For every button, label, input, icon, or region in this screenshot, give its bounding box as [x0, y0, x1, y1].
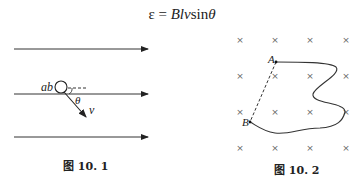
magnetic-field-crosses: ×××× ×××× ×××× ××××	[236, 35, 350, 153]
figure2-caption: 图 10. 2	[274, 161, 319, 177]
curved-wire	[250, 62, 345, 133]
label-a: A	[268, 53, 275, 65]
cross-icon: ×	[236, 71, 244, 81]
cross-icon: ×	[271, 143, 279, 153]
cross-icon: ×	[271, 35, 279, 45]
figures-canvas: ×××× ×××× ×××× ××××	[0, 0, 364, 182]
angle-arc	[69, 88, 72, 94]
label-ab: ab	[41, 80, 53, 95]
figure1-field-lines	[14, 49, 148, 137]
cross-icon: ×	[306, 107, 314, 117]
label-theta: θ	[75, 94, 80, 106]
cross-icon: ×	[306, 143, 314, 153]
cross-icon: ×	[342, 71, 350, 81]
conductor-circle-icon	[55, 81, 67, 93]
cross-icon: ×	[236, 35, 244, 45]
cross-icon: ×	[342, 35, 350, 45]
point-a-dot	[275, 61, 278, 64]
figure1-caption: 图 10. 1	[63, 157, 108, 173]
cross-icon: ×	[271, 107, 279, 117]
cross-icon: ×	[236, 143, 244, 153]
cross-icon: ×	[271, 71, 279, 81]
cross-icon: ×	[306, 71, 314, 81]
cross-icon: ×	[342, 143, 350, 153]
point-b-dot	[249, 121, 252, 124]
cross-icon: ×	[306, 35, 314, 45]
label-b: B	[242, 116, 249, 128]
label-velocity: v	[89, 103, 94, 118]
